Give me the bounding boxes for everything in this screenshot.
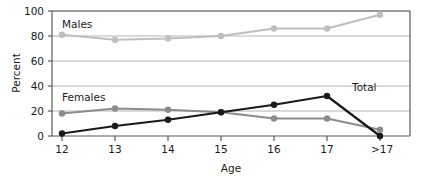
x-axis-title: Age [221,162,241,174]
data-point-total-17 [324,93,330,99]
series-label-males: Males [62,18,92,30]
chart-container: 100 80 60 40 20 0 12 13 14 15 16 17 >17 … [0,0,422,177]
data-point-males-15 [218,33,224,39]
y-axis-title: Percent [10,53,22,93]
y-tick-label-20: 20 [31,105,44,117]
data-point-total-16 [271,102,277,108]
data-point-females-13 [112,105,118,111]
x-tick-label-15: 15 [214,143,227,155]
x-tick-label-14: 14 [161,143,175,155]
y-tick-label-0: 0 [37,130,44,142]
x-tick-label-12: 12 [55,143,68,155]
data-point-females-14 [165,107,171,113]
data-point-males-17 [324,25,330,31]
data-point-males->17 [377,12,383,18]
data-point-total->17 [377,133,383,139]
series-label-females: Females [62,91,105,103]
series-label-total: Total [351,81,377,93]
data-point-males-16 [271,25,277,31]
data-point-females-17 [324,115,330,121]
data-point-females-12 [59,110,65,116]
data-point-total-13 [112,123,118,129]
data-point-males-14 [165,35,171,41]
y-tick-label-60: 60 [31,55,44,67]
x-tick-label-17: 17 [320,143,333,155]
data-point-males-12 [59,32,65,38]
y-tick-label-80: 80 [31,30,44,42]
x-tick-label-13: 13 [108,143,121,155]
data-point-males-13 [112,37,118,43]
data-point-females-16 [271,115,277,121]
data-point-females->17 [377,127,383,133]
data-point-total-12 [59,130,65,136]
x-tick-label-16: 16 [267,143,281,155]
data-point-total-15 [218,109,224,115]
y-tick-label-40: 40 [31,80,44,92]
x-tick-label-over17: >17 [371,143,393,155]
y-tick-label-100: 100 [24,5,44,17]
line-chart: 100 80 60 40 20 0 12 13 14 15 16 17 >17 … [0,0,422,177]
data-point-total-14 [165,117,171,123]
